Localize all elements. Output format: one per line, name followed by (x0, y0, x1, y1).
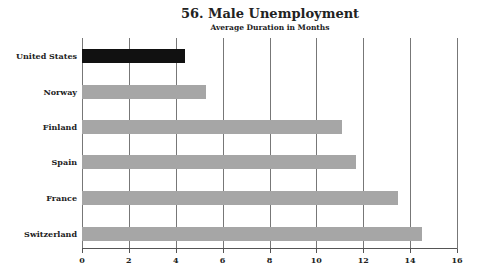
bar-france (82, 191, 398, 205)
x-tick-label: 16 (451, 255, 462, 265)
tick-mark (223, 249, 224, 253)
x-tick-label: 0 (79, 255, 85, 265)
tick-mark (176, 249, 177, 253)
tick-mark (316, 249, 317, 253)
category-label: France (46, 193, 77, 203)
bar-finland (82, 120, 342, 134)
category-label: Switzerland (24, 229, 77, 239)
bar-united-states (82, 49, 185, 63)
gridline (82, 38, 83, 249)
x-tick-label: 8 (267, 255, 273, 265)
tick-mark (410, 249, 411, 253)
gridline (316, 38, 317, 249)
bar-norway (82, 85, 206, 99)
gridline (457, 38, 458, 249)
gridline (223, 38, 224, 249)
tick-mark (129, 249, 130, 253)
category-label: United States (16, 51, 77, 61)
x-tick-label: 14 (405, 255, 416, 265)
tick-mark (270, 249, 271, 253)
gridline (410, 38, 411, 249)
tick-mark (363, 249, 364, 253)
gridline (129, 38, 130, 249)
x-tick-label: 2 (126, 255, 132, 265)
category-label: Spain (52, 157, 77, 167)
x-tick-label: 4 (173, 255, 179, 265)
x-tick-label: 6 (220, 255, 226, 265)
bar-spain (82, 155, 356, 169)
category-label: Finland (43, 122, 77, 132)
chart-subtitle: Average Duration in Months (0, 23, 485, 32)
gridline (270, 38, 271, 249)
tick-mark (82, 249, 83, 253)
x-tick-label: 10 (311, 255, 322, 265)
bar-switzerland (82, 227, 422, 241)
plot-area (82, 38, 457, 249)
chart-title: 56. Male Unemployment (0, 6, 485, 21)
gridline (363, 38, 364, 249)
category-label: Norway (43, 87, 77, 97)
x-tick-label: 12 (358, 255, 369, 265)
tick-mark (457, 249, 458, 253)
gridline (176, 38, 177, 249)
